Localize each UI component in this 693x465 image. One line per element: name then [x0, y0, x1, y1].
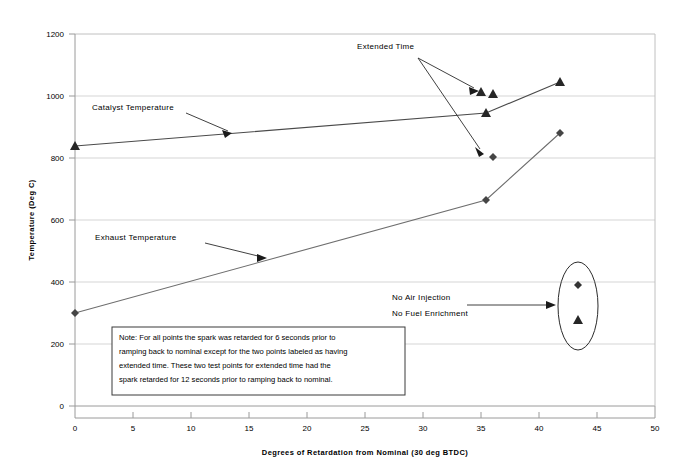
y-tick-label-0: 0	[60, 402, 65, 411]
note-line-2: ramping back to nominal except for the t…	[119, 347, 347, 356]
y-axis-ticks	[69, 34, 75, 406]
note-box: Note: For all points the spark was retar…	[112, 327, 405, 395]
annotation-extended-time: Extended Time	[357, 42, 484, 157]
x-tick-label-45: 45	[593, 424, 602, 433]
y-tick-label-800: 800	[51, 154, 65, 163]
arrowhead-icon	[546, 301, 556, 309]
annotation-no-air-injection: No Air Injection No Fuel Enrichment	[392, 262, 598, 350]
chart-container: 1200 1000 800 600 400 200 0 0 5 10	[0, 0, 693, 465]
x-axis-title: Degrees of Retardation from Nominal (30 …	[262, 448, 468, 457]
y-axis-title: Temperature (Deg C)	[27, 179, 36, 260]
annotation-extended-time-leader-b	[418, 58, 480, 149]
annotation-exhaust-temperature: Exhaust Temperature	[95, 233, 267, 262]
annotation-extended-time-leader-a	[418, 58, 474, 88]
note-line-3: extended time. These two test points for…	[119, 361, 331, 370]
y-tick-label-600: 600	[51, 216, 65, 225]
note-line-1: Note: For all points the spark was retar…	[119, 333, 336, 342]
data-point-marker-diamond	[71, 309, 79, 317]
x-axis-tick-labels: 0 5 10 15 20 25 30 35 40 45 50	[73, 424, 660, 433]
arrowhead-icon	[222, 130, 232, 138]
annotation-no-fuel-enrichment-label: No Fuel Enrichment	[392, 309, 469, 318]
x-tick-label-0: 0	[73, 424, 78, 433]
exhaust-temperature-line	[75, 133, 560, 313]
x-tick-label-50: 50	[651, 424, 660, 433]
data-point-marker-diamond	[489, 153, 497, 161]
data-point-marker-triangle	[573, 315, 583, 324]
x-tick-label-20: 20	[303, 424, 312, 433]
series-exhaust-extended-time	[489, 153, 497, 161]
annotation-catalyst-label: Catalyst Temperature	[92, 103, 174, 112]
x-axis-ticks	[75, 406, 655, 418]
chart-svg: 1200 1000 800 600 400 200 0 0 5 10	[0, 0, 693, 465]
x-tick-label-40: 40	[535, 424, 544, 433]
data-point-marker-triangle	[488, 89, 498, 98]
x-tick-label-25: 25	[361, 424, 370, 433]
y-tick-label-1200: 1200	[46, 30, 64, 39]
annotation-no-air-injection-label: No Air Injection	[392, 293, 451, 302]
annotation-extended-time-label: Extended Time	[357, 42, 415, 51]
x-tick-label-30: 30	[419, 424, 428, 433]
x-tick-label-10: 10	[187, 424, 196, 433]
y-axis-tick-labels: 1200 1000 800 600 400 200 0	[46, 30, 64, 411]
series-catalyst-temperature	[70, 77, 565, 150]
y-tick-label-200: 200	[51, 340, 65, 349]
data-point-marker-triangle	[555, 77, 565, 86]
x-tick-label-35: 35	[477, 424, 486, 433]
y-tick-label-1000: 1000	[46, 92, 64, 101]
x-tick-label-5: 5	[131, 424, 136, 433]
note-line-4: spark retarded for 12 seconds prior to r…	[119, 375, 333, 384]
annotation-catalyst-temperature: Catalyst Temperature	[92, 103, 232, 138]
x-tick-label-15: 15	[245, 424, 254, 433]
data-point-marker-triangle	[481, 108, 491, 117]
annotation-catalyst-leader	[186, 113, 228, 131]
annotation-exhaust-label: Exhaust Temperature	[95, 233, 177, 242]
y-tick-label-400: 400	[51, 278, 65, 287]
highlight-ellipse	[558, 262, 598, 350]
annotation-exhaust-leader	[205, 243, 262, 257]
